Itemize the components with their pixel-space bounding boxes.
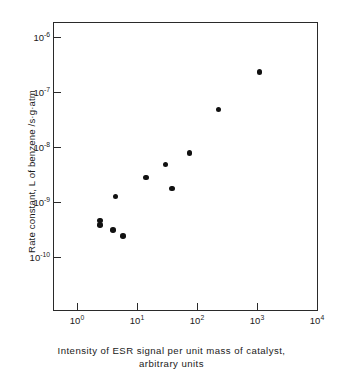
data-point: [143, 175, 149, 181]
x-tick-mark: [197, 303, 198, 311]
y-tick-label-mantissa: 10: [33, 32, 44, 43]
x-tick-label: 100: [57, 314, 97, 326]
x-tick-mark: [137, 303, 138, 311]
y-tick-mark: [53, 257, 61, 258]
x-tick-label: 104: [297, 314, 337, 326]
data-point: [257, 69, 263, 75]
y-tick-mark: [53, 37, 61, 38]
y-tick-label-exponent: -7: [44, 86, 50, 93]
y-tick-label-exponent: -6: [44, 31, 50, 38]
x-tick-label-mantissa: 10: [190, 315, 201, 326]
x-tick-label-exponent: 3: [260, 314, 264, 321]
x-tick-label: 102: [177, 314, 217, 326]
data-point: [97, 222, 103, 228]
y-tick-label-exponent: -8: [44, 141, 50, 148]
y-tick-mark: [53, 92, 61, 93]
data-point: [187, 150, 193, 156]
data-point: [120, 233, 126, 239]
x-tick-label-exponent: 4: [320, 314, 324, 321]
x-tick-mark: [77, 303, 78, 311]
x-tick-label-mantissa: 10: [130, 315, 141, 326]
y-tick-label-exponent: -9: [44, 196, 50, 203]
x-tick-label-mantissa: 10: [70, 315, 81, 326]
x-tick-label-mantissa: 10: [250, 315, 261, 326]
x-tick-label-exponent: 1: [140, 314, 144, 321]
plot-area: [53, 22, 318, 311]
y-axis-title: Rate constant, L of benzene /s·g·atm: [26, 57, 37, 287]
x-tick-label-exponent: 2: [200, 314, 204, 321]
x-axis-title: Intensity of ESR signal per unit mass of…: [0, 344, 343, 370]
x-tick-mark: [257, 303, 258, 311]
x-axis-title-line1: Intensity of ESR signal per unit mass of…: [58, 345, 286, 356]
x-tick-mark: [317, 303, 318, 311]
figure: 10-6 10-7 10-8 10-9 10-10 100 101 102 10…: [0, 0, 343, 385]
x-tick-label: 103: [237, 314, 277, 326]
x-tick-label-mantissa: 10: [310, 315, 321, 326]
x-tick-label: 101: [117, 314, 157, 326]
data-point: [169, 186, 175, 192]
y-tick-label-exponent: -10: [40, 251, 50, 258]
x-axis-title-line2: arbitrary units: [0, 357, 343, 370]
y-tick-mark: [53, 147, 61, 148]
x-tick-label-exponent: 0: [80, 314, 84, 321]
data-point: [110, 227, 116, 233]
y-tick-label: 10-6: [0, 31, 50, 43]
y-tick-mark: [53, 202, 61, 203]
